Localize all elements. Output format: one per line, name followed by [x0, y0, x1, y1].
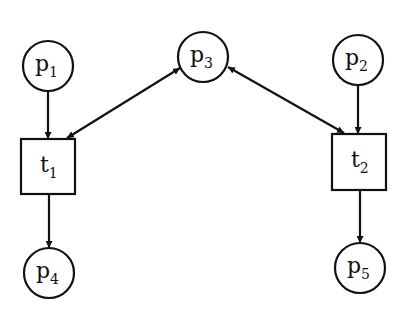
- arc-p3-t2: [228, 67, 344, 133]
- petri-net-diagram: p1 p2 p3 p4 p5 t1 t2: [0, 0, 404, 323]
- arc-p3-t1: [67, 68, 180, 138]
